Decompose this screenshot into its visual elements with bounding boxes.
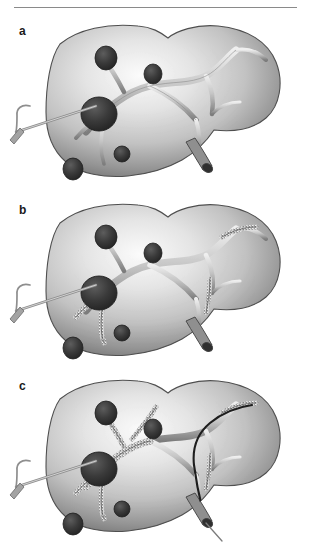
tumor-lower-left xyxy=(63,158,83,180)
panel-b-label: b xyxy=(19,203,26,217)
panel-b: b xyxy=(0,193,309,373)
tumor-large-left xyxy=(81,452,117,486)
tumor-large-left xyxy=(81,97,117,131)
tumor-upper-mid xyxy=(144,243,162,263)
tumor-lower-mid xyxy=(114,146,130,162)
tumor-upper-left xyxy=(95,401,117,425)
panel-c-illustration xyxy=(0,369,309,549)
tumor-lower-mid xyxy=(114,325,130,341)
figure-root: a xyxy=(0,0,309,549)
tumor-lower-left xyxy=(63,337,83,359)
panel-b-illustration xyxy=(0,193,309,373)
panel-c: c xyxy=(0,369,309,549)
tumor-upper-mid xyxy=(144,64,162,84)
tumor-large-left xyxy=(81,276,117,310)
tumor-upper-left xyxy=(95,225,117,249)
panel-a: a xyxy=(0,14,309,194)
tumor-lower-mid xyxy=(114,501,130,517)
portal-vein-catheter-entry-c xyxy=(206,523,222,541)
panel-a-label: a xyxy=(19,24,26,38)
tumor-upper-left xyxy=(95,46,117,70)
tumor-lower-left xyxy=(63,513,83,535)
tumor-upper-mid xyxy=(144,419,162,439)
panel-a-illustration xyxy=(0,14,309,194)
top-divider-rule xyxy=(14,7,297,8)
panel-c-label: c xyxy=(19,379,26,393)
